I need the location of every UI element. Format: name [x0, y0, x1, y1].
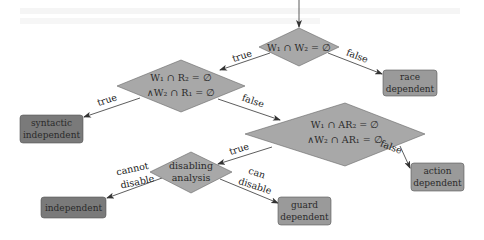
edge-label-d2-false: false: [241, 92, 266, 110]
outcome-race-dependent: race dependent: [383, 70, 437, 96]
outcome-syntactic-independent: syntactic independent: [20, 115, 83, 143]
outcome-action-line1: action: [423, 166, 451, 176]
decision-d2-line1: W₁ ∩ R₂ = ∅: [150, 72, 212, 83]
outcome-race-line2: dependent: [386, 84, 435, 94]
decision-d4-line2: analysis: [172, 172, 211, 183]
edge-label-d4-can-2: disable: [237, 175, 273, 196]
outcome-independent-label: independent: [45, 203, 103, 213]
edge-label-d1-false: false: [345, 47, 371, 66]
outcome-guard-line2: dependent: [280, 212, 329, 222]
decision-d3-line1: W₁ ∩ AR₂ = ∅: [311, 119, 379, 130]
outcome-guard-line1: guard: [291, 200, 318, 210]
edge-label-d2-true: true: [96, 91, 119, 108]
decision-d3: W₁ ∩ AR₂ = ∅ ∧W₂ ∩ AR₁ = ∅: [245, 103, 425, 166]
decision-d4: disabling analysis: [150, 152, 232, 193]
outcome-syntactic-line1: syntactic: [31, 118, 72, 128]
outcome-guard-dependent: guard dependent: [278, 197, 331, 225]
flowchart-canvas: W₁ ∩ W₂ = ∅ W₁ ∩ R₂ = ∅ ∧W₂ ∩ R₁ = ∅ W₁ …: [0, 0, 484, 240]
outcome-independent: independent: [41, 197, 106, 218]
edge-label-d1-true: true: [231, 47, 254, 64]
decision-d1-text: W₁ ∩ W₂ = ∅: [267, 42, 331, 53]
decision-d4-line1: disabling: [169, 160, 213, 171]
outcome-action-dependent: action dependent: [411, 163, 464, 191]
outcome-race-line1: race: [400, 72, 420, 82]
background-text: [20, 8, 460, 24]
outcome-syntactic-line2: independent: [23, 130, 81, 140]
decision-d1: W₁ ∩ W₂ = ∅: [259, 28, 339, 66]
decision-d2-line2: ∧W₂ ∩ R₁ = ∅: [147, 87, 216, 98]
outcome-action-line2: dependent: [413, 178, 462, 188]
decision-d3-line2: ∧W₂ ∩ AR₁ = ∅: [307, 134, 382, 145]
